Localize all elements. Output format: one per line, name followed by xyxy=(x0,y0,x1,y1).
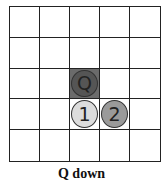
grid-cell xyxy=(70,7,100,38)
piece-2: 2 xyxy=(101,100,128,128)
grid-cell xyxy=(10,7,40,38)
grid-cell xyxy=(130,130,160,161)
grid-cell: 1 xyxy=(70,99,100,130)
grid-cell xyxy=(70,38,100,69)
caption: Q down xyxy=(0,166,163,182)
grid-cell xyxy=(70,130,100,161)
grid-cell xyxy=(40,99,70,130)
board-grid: Q12 xyxy=(9,6,161,162)
grid-cell xyxy=(130,69,160,100)
grid-cell xyxy=(100,130,130,161)
grid-cell: Q xyxy=(70,69,100,100)
grid-cell xyxy=(10,38,40,69)
grid-cell xyxy=(10,99,40,130)
grid-cell: 2 xyxy=(100,99,130,130)
grid-cell xyxy=(130,99,160,130)
grid-cell xyxy=(100,69,130,100)
grid-cell xyxy=(40,7,70,38)
grid-cell xyxy=(100,38,130,69)
grid-cell xyxy=(10,130,40,161)
piece-q: Q xyxy=(71,70,98,98)
grid-cell xyxy=(40,38,70,69)
grid-cell xyxy=(100,7,130,38)
grid-cell xyxy=(40,130,70,161)
grid-cell xyxy=(130,38,160,69)
piece-1: 1 xyxy=(71,100,98,128)
grid-cell xyxy=(130,7,160,38)
grid-cell xyxy=(10,69,40,100)
grid-cell xyxy=(40,69,70,100)
